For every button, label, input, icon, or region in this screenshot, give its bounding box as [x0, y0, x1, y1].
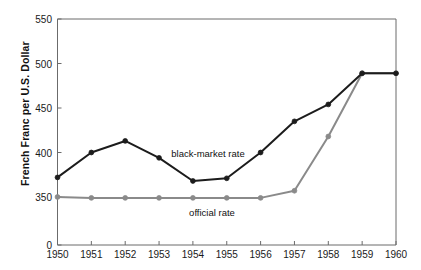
- data-point: [191, 179, 196, 184]
- data-point: [157, 195, 162, 200]
- x-axis-ticks: [58, 241, 397, 245]
- data-point: [360, 71, 365, 76]
- data-point: [258, 150, 263, 155]
- data-series-layer: [55, 71, 398, 200]
- plot-area: [0, 0, 421, 270]
- chart-container: French Franc per U.S. Dollar 03504004505…: [0, 0, 421, 270]
- data-point: [123, 195, 128, 200]
- data-point: [157, 155, 162, 160]
- data-point: [55, 195, 60, 200]
- data-point: [258, 195, 263, 200]
- data-point: [89, 195, 94, 200]
- data-point: [326, 102, 331, 107]
- data-point: [123, 139, 128, 144]
- data-point: [191, 195, 196, 200]
- series-black-market-rate: [55, 71, 398, 183]
- data-point: [224, 176, 229, 181]
- data-point: [89, 150, 94, 155]
- data-point: [394, 71, 399, 76]
- data-point: [292, 188, 297, 193]
- axis-frame: [58, 19, 397, 245]
- data-point: [326, 134, 331, 139]
- data-point: [292, 119, 297, 124]
- data-point: [224, 195, 229, 200]
- data-point: [55, 175, 60, 180]
- y-axis-ticks: [58, 19, 62, 245]
